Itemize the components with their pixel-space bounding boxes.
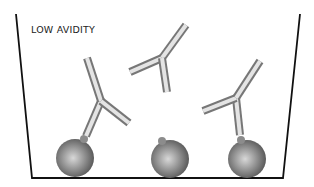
antigen-middle <box>151 137 189 178</box>
antigen-left <box>56 135 94 177</box>
antibody-right <box>203 61 260 135</box>
diagram-label: LOW AVIDITY <box>31 24 95 35</box>
antigen-right <box>228 136 266 178</box>
antibody-top <box>130 25 186 92</box>
antibody-left <box>86 58 129 136</box>
